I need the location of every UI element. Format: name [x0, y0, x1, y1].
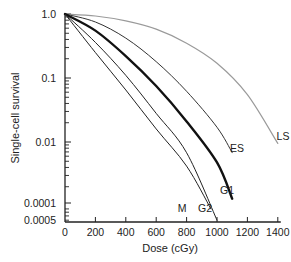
curve-label-g2: G2 — [198, 202, 212, 214]
x-tick-label: 600 — [147, 226, 165, 238]
x-tick-label: 0 — [62, 226, 68, 238]
y-axis-title: Single-cell survival — [9, 72, 21, 163]
x-axis-title: Dose (cGy) — [142, 242, 198, 254]
curve-label-ls: LS — [277, 130, 290, 142]
y-tick-label: 1.0 — [41, 8, 56, 20]
x-tick-label: 1000 — [205, 226, 229, 238]
x-tick-label: 400 — [117, 226, 135, 238]
curve-label-m: M — [178, 202, 187, 214]
y-tick-label: 0.1 — [41, 72, 56, 84]
survival-curves — [65, 14, 278, 220]
curve-label-g1: G1 — [220, 184, 234, 196]
curve-es — [65, 14, 232, 153]
curve-g1 — [65, 14, 232, 199]
y-tick-label: 0.0001 — [24, 197, 56, 209]
x-tick-label: 200 — [87, 226, 105, 238]
y-tick-label: 0.01 — [36, 136, 57, 148]
curve-ls — [65, 14, 278, 143]
x-tick-label: 1200 — [236, 226, 260, 238]
survival-chart: 02004006008001000120014001.00.10.010.000… — [0, 0, 291, 262]
curve-labels: LSESG1G2M — [178, 130, 290, 214]
axes: 02004006008001000120014001.00.10.010.000… — [24, 8, 290, 238]
curve-m — [65, 14, 211, 209]
curve-label-es: ES — [230, 142, 244, 154]
curve-g2 — [65, 14, 217, 220]
y-tick-label: 0.0005 — [24, 214, 56, 226]
x-tick-label: 1400 — [266, 226, 290, 238]
x-tick-label: 800 — [178, 226, 196, 238]
